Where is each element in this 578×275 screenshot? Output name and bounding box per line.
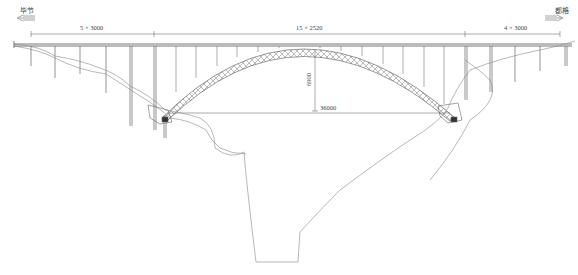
left-arrow-icon: [17, 15, 35, 21]
direction-right: 都格: [545, 6, 569, 21]
arch-abutments: [148, 103, 462, 124]
direction-left: 毕节: [17, 6, 35, 21]
right-approach-piers: [465, 46, 567, 100]
right-approach-span-label: 4 × 3000: [504, 24, 527, 31]
right-arrow-icon: [545, 15, 563, 21]
bridge-elevation-diagram: 毕节 都格 5 × 3000 15 × 2520 4 × 3000: [0, 0, 578, 275]
main-arch-span-label: 15 × 2520: [296, 24, 322, 31]
arch-rise-label: 6900: [305, 73, 312, 86]
direction-left-label: 毕节: [20, 6, 34, 15]
span-dimension-line: [31, 31, 560, 37]
left-approach-piers: [31, 46, 166, 138]
bridge-deck: [14, 41, 572, 48]
direction-right-label: 都格: [555, 6, 569, 15]
arch-span-label: 36000: [320, 104, 336, 111]
left-approach-span-label: 5 × 3000: [80, 24, 103, 31]
terrain-profile: [14, 41, 575, 262]
